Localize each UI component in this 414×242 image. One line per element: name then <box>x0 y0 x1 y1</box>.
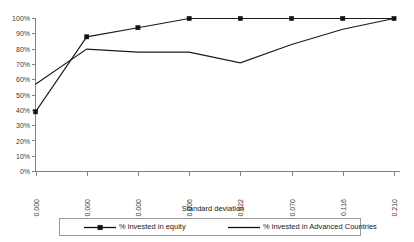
chart-container: 100%90%80%70%60%50%40%30%20%10%0% 0.0000… <box>0 0 414 242</box>
series-line-1 <box>36 19 395 112</box>
series-marker <box>238 16 242 20</box>
y-tick-label: 0% <box>20 168 30 175</box>
y-tick-label: 100% <box>12 15 30 22</box>
y-tick-label: 70% <box>16 61 30 68</box>
x-axis-title: Standard deviation <box>182 204 245 213</box>
y-tick-label: 50% <box>16 92 30 99</box>
series-marker <box>289 16 293 20</box>
y-tick-label: 60% <box>16 76 30 83</box>
y-tick-label: 40% <box>16 107 30 114</box>
y-tick-label: 30% <box>16 122 30 129</box>
series-marker <box>187 16 191 20</box>
y-tick-label: 80% <box>16 46 30 53</box>
y-tick-label: 20% <box>16 138 30 145</box>
x-tick-label: 0.210 <box>391 199 398 217</box>
x-tick-label: 0.000 <box>84 199 91 217</box>
line-chart: 100%90%80%70%60%50%40%30%20%10%0% 0.0000… <box>0 0 414 242</box>
series-group <box>33 16 396 114</box>
series-marker <box>85 35 89 39</box>
x-tick-label: 0.070 <box>289 199 296 217</box>
y-tick-label: 10% <box>16 153 30 160</box>
series-marker <box>136 26 140 30</box>
legend-group: % invested in equity% invested in Advanc… <box>84 222 377 231</box>
y-tick-label: 90% <box>16 30 30 37</box>
x-tick-label: 0.116 <box>340 199 347 216</box>
y-tick-group: 100%90%80%70%60%50%40%30%20%10%0% <box>12 15 35 175</box>
legend-marker <box>98 225 103 230</box>
series-marker <box>341 16 345 20</box>
x-tick-label: 0.000 <box>33 199 40 217</box>
legend-label-1: % invested in equity <box>119 222 186 231</box>
series-line-2 <box>36 19 395 85</box>
legend-label-2: % invested in Advanced Countries <box>263 222 377 231</box>
series-marker <box>33 110 37 114</box>
x-tick-label: 0.000 <box>135 199 142 217</box>
